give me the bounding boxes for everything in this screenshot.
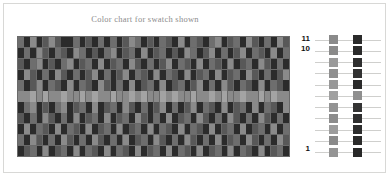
swatch-color-a bbox=[329, 103, 338, 112]
chart-cell bbox=[240, 70, 246, 80]
chart-cell bbox=[141, 91, 147, 101]
chart-cell bbox=[154, 113, 160, 123]
chart-cell bbox=[154, 48, 160, 58]
chart-cell bbox=[271, 113, 277, 123]
chart-cell bbox=[123, 37, 129, 47]
chart-cell bbox=[80, 102, 86, 112]
chart-cell bbox=[37, 91, 43, 101]
chart-cell bbox=[203, 146, 209, 156]
chart-cell bbox=[246, 80, 252, 90]
chart-cell bbox=[80, 135, 86, 145]
chart-cell bbox=[86, 59, 92, 69]
chart-cell bbox=[104, 146, 110, 156]
chart-cell bbox=[222, 146, 228, 156]
row-label-1: 1 bbox=[290, 144, 310, 153]
chart-cell bbox=[215, 80, 221, 90]
chart-cell bbox=[129, 70, 135, 80]
chart-cell bbox=[24, 113, 30, 123]
swatch-color-b bbox=[353, 136, 362, 145]
chart-cell bbox=[37, 146, 43, 156]
chart-cell bbox=[117, 59, 123, 69]
color-chart-figure: Color chart for swatch shown 11 10 1 bbox=[0, 0, 389, 176]
chart-cell bbox=[24, 59, 30, 69]
chart-cell bbox=[86, 37, 92, 47]
chart-cell bbox=[24, 48, 30, 58]
chart-cell bbox=[135, 91, 141, 101]
chart-cell bbox=[117, 70, 123, 80]
chart-cell bbox=[277, 113, 283, 123]
chart-cell bbox=[86, 146, 92, 156]
chart-cell bbox=[271, 59, 277, 69]
swatch-legend-row bbox=[315, 102, 381, 113]
chart-cell bbox=[166, 70, 172, 80]
chart-cell bbox=[222, 37, 228, 47]
chart-cell bbox=[191, 102, 197, 112]
chart-cell bbox=[191, 135, 197, 145]
chart-cell bbox=[18, 70, 24, 80]
swatch-separator-line bbox=[315, 51, 381, 52]
chart-cell bbox=[135, 102, 141, 112]
chart-cell bbox=[98, 135, 104, 145]
swatch-legend-row bbox=[315, 79, 381, 90]
chart-cell bbox=[240, 124, 246, 134]
chart-cell bbox=[222, 102, 228, 112]
chart-cell bbox=[160, 135, 166, 145]
swatch-separator-line bbox=[315, 40, 381, 41]
chart-cell bbox=[265, 80, 271, 90]
chart-cell bbox=[228, 48, 234, 58]
chart-cell bbox=[104, 80, 110, 90]
chart-cell bbox=[49, 135, 55, 145]
chart-cell bbox=[92, 70, 98, 80]
chart-cell bbox=[240, 48, 246, 58]
chart-cell bbox=[61, 102, 67, 112]
swatch-color-a bbox=[329, 35, 338, 44]
swatch-color-b bbox=[353, 103, 362, 112]
chart-cell bbox=[74, 59, 80, 69]
chart-cell bbox=[141, 113, 147, 123]
chart-cell bbox=[228, 113, 234, 123]
chart-cell bbox=[135, 70, 141, 80]
chart-cell bbox=[166, 91, 172, 101]
swatch-legend-row bbox=[315, 135, 381, 146]
chart-cell bbox=[135, 146, 141, 156]
chart-cell bbox=[55, 124, 61, 134]
chart-cell bbox=[154, 70, 160, 80]
chart-cell bbox=[55, 48, 61, 58]
chart-cell bbox=[18, 102, 24, 112]
chart-cell bbox=[228, 135, 234, 145]
chart-cell bbox=[148, 146, 154, 156]
chart-cell bbox=[246, 113, 252, 123]
chart-cell bbox=[178, 59, 184, 69]
chart-cell bbox=[135, 48, 141, 58]
chart-cell bbox=[252, 59, 258, 69]
chart-cell bbox=[246, 102, 252, 112]
chart-cell bbox=[246, 48, 252, 58]
chart-cell bbox=[67, 91, 73, 101]
chart-cell bbox=[104, 124, 110, 134]
chart-cell bbox=[129, 135, 135, 145]
chart-cell bbox=[92, 102, 98, 112]
chart-cell bbox=[135, 113, 141, 123]
chart-cell bbox=[37, 135, 43, 145]
chart-cell bbox=[74, 80, 80, 90]
chart-cell bbox=[185, 70, 191, 80]
chart-cell bbox=[43, 80, 49, 90]
chart-cell bbox=[259, 124, 265, 134]
swatch-color-b bbox=[353, 80, 362, 89]
chart-cell bbox=[49, 146, 55, 156]
chart-cell bbox=[197, 48, 203, 58]
chart-cell bbox=[283, 135, 289, 145]
chart-cell bbox=[240, 91, 246, 101]
chart-cell bbox=[215, 146, 221, 156]
chart-cell bbox=[259, 70, 265, 80]
chart-cell bbox=[271, 70, 277, 80]
chart-cell bbox=[111, 135, 117, 145]
chart-cell bbox=[135, 37, 141, 47]
chart-cell bbox=[234, 146, 240, 156]
chart-cell bbox=[252, 135, 258, 145]
chart-cell bbox=[234, 37, 240, 47]
chart-cell bbox=[55, 113, 61, 123]
chart-cell bbox=[246, 146, 252, 156]
chart-cell bbox=[191, 37, 197, 47]
chart-cell bbox=[92, 146, 98, 156]
